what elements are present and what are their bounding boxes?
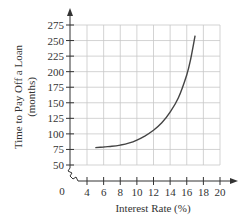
y-axis-arrow-icon — [67, 8, 73, 16]
x-tick-label: 18 — [198, 186, 210, 198]
x-tick-label: 12 — [148, 186, 159, 198]
y-tick-label: 275 — [48, 19, 65, 31]
x-tick-label: 6 — [101, 186, 107, 198]
data-curve — [95, 36, 195, 148]
x-axis-arrow-icon — [230, 178, 238, 184]
y-tick-label: 225 — [48, 50, 65, 62]
origin-label: 0 — [59, 185, 65, 197]
x-axis-ticks: 468101214161820 — [84, 177, 226, 198]
y-tick-label: 200 — [48, 66, 65, 78]
chart: 5075100125150175200225250275 46810121416… — [0, 0, 250, 224]
axis-break-icon — [68, 168, 78, 181]
y-tick-label: 150 — [48, 97, 65, 109]
y-tick-label: 250 — [48, 35, 65, 47]
y-axis-label-line2: (months) — [25, 77, 38, 117]
y-tick-label: 50 — [53, 159, 65, 171]
x-tick-label: 8 — [118, 186, 124, 198]
y-tick-label: 100 — [48, 128, 65, 140]
x-tick-label: 14 — [165, 186, 177, 198]
x-tick-label: 4 — [84, 186, 90, 198]
y-tick-label: 125 — [48, 112, 65, 124]
x-tick-label: 10 — [131, 186, 143, 198]
y-tick-label: 175 — [48, 81, 65, 93]
axes — [67, 8, 238, 184]
grid-lines — [70, 25, 220, 165]
x-tick-label: 20 — [215, 186, 227, 198]
x-axis-label: Interest Rate (%) — [115, 202, 190, 215]
x-tick-label: 16 — [181, 186, 193, 198]
y-tick-label: 75 — [53, 143, 65, 155]
y-axis-label-line1: Time to Pay Off a Loan — [12, 44, 24, 149]
